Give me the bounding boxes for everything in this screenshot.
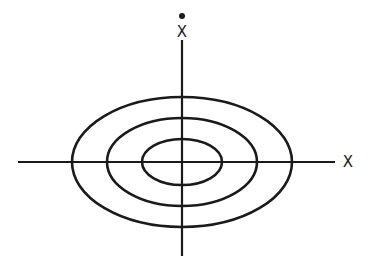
x-axis-label: X [343, 155, 353, 170]
derivative-dot-icon [179, 13, 185, 19]
x-dot-axis-label: X [177, 25, 187, 40]
phase-plane-diagram [0, 0, 370, 278]
